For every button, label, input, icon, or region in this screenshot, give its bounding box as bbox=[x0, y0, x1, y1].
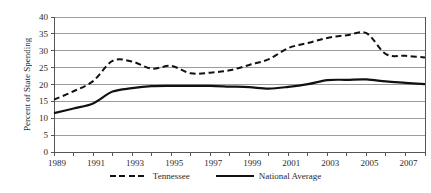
x-tick-label: 1999 bbox=[243, 158, 262, 168]
tennessee-dashed-line-swatch bbox=[110, 175, 148, 177]
x-tick-label: 2003 bbox=[321, 158, 340, 168]
y-tick-label: 15 bbox=[39, 96, 49, 106]
y-tick-label: 35 bbox=[39, 29, 49, 39]
x-tick-label: 1993 bbox=[126, 158, 145, 168]
x-tick-label: 1997 bbox=[204, 158, 223, 168]
y-tick-label: 5 bbox=[44, 130, 49, 140]
legend-label-national-average: National Average bbox=[259, 171, 322, 181]
y-tick-label: 40 bbox=[39, 12, 49, 22]
y-tick-label: 30 bbox=[39, 46, 49, 56]
x-tick-label: 1991 bbox=[87, 158, 105, 168]
line-chart: 0510152025303540198919911993199519971999… bbox=[0, 0, 431, 193]
chart-legend: Tennessee National Average bbox=[0, 171, 431, 181]
national-average-solid-line-swatch bbox=[216, 175, 254, 177]
y-tick-label: 25 bbox=[39, 63, 49, 73]
y-tick-label: 0 bbox=[44, 147, 49, 157]
y-tick-label: 10 bbox=[39, 113, 49, 123]
tennessee-line bbox=[54, 32, 425, 100]
x-tick-label: 2001 bbox=[282, 158, 300, 168]
x-tick-label: 2005 bbox=[360, 158, 379, 168]
y-tick-label: 20 bbox=[39, 80, 49, 90]
x-tick-label: 1989 bbox=[48, 158, 67, 168]
x-tick-label: 1995 bbox=[165, 158, 184, 168]
legend-item-tennessee: Tennessee bbox=[110, 171, 190, 181]
legend-label-tennessee: Tennessee bbox=[153, 171, 190, 181]
legend-item-national-average: National Average bbox=[216, 171, 322, 181]
x-tick-label: 2007 bbox=[399, 158, 418, 168]
